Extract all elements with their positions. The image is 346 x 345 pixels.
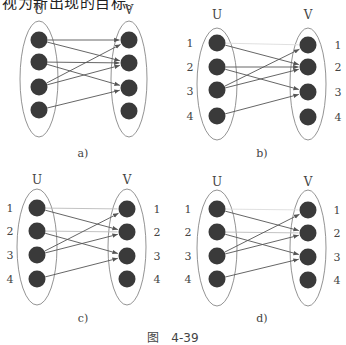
node-v2 <box>300 59 317 76</box>
row-label-right-2: 2 <box>335 61 342 74</box>
row-label-right-1: 1 <box>334 204 341 217</box>
panel-sublabel: c) <box>78 312 88 325</box>
node-v1 <box>300 202 317 219</box>
node-u4 <box>209 271 226 288</box>
node-u3 <box>29 247 46 264</box>
edge-u1-v1 <box>45 208 117 209</box>
row-label-right-4: 4 <box>154 273 161 286</box>
row-label-left-4: 4 <box>7 273 14 286</box>
panel-sublabel: d) <box>256 312 267 325</box>
edge-u1-v2 <box>225 211 299 230</box>
node-v4 <box>119 271 136 288</box>
node-v3 <box>121 80 138 97</box>
edge-u1-v1 <box>225 209 298 210</box>
node-v2 <box>121 55 138 72</box>
set-u-label: U <box>212 175 222 189</box>
caption-number: 4-39 <box>171 331 198 345</box>
node-v4 <box>300 272 317 289</box>
node-u1 <box>29 200 46 217</box>
node-u3 <box>31 79 48 96</box>
node-u4 <box>209 108 226 125</box>
panel-b: UV12341234b) <box>187 8 342 160</box>
node-u1 <box>209 201 226 218</box>
node-v2 <box>300 225 317 242</box>
row-label-right-2: 2 <box>154 226 161 239</box>
row-label-left-3: 3 <box>185 250 192 263</box>
node-u4 <box>31 102 48 119</box>
panel-sublabel: b) <box>256 147 267 160</box>
set-u-label: U <box>212 8 222 22</box>
row-label-right-1: 1 <box>154 203 161 216</box>
row-label-left-2: 2 <box>185 226 192 239</box>
row-label-right-3: 3 <box>335 86 342 99</box>
node-v1 <box>119 201 136 218</box>
figure-caption: 图 4-39 <box>0 328 346 345</box>
node-u1 <box>31 32 48 49</box>
set-v-label: V <box>122 173 132 187</box>
edge-u1-v2 <box>47 42 120 61</box>
edge-u4-v3 <box>47 90 120 108</box>
node-v1 <box>300 37 317 54</box>
row-label-left-4: 4 <box>185 273 192 286</box>
set-u-label: U <box>34 3 44 17</box>
edge-u1-v1 <box>225 43 298 45</box>
row-label-left-3: 3 <box>187 85 194 98</box>
row-label-right-3: 3 <box>334 251 341 264</box>
set-v-label: V <box>303 8 313 22</box>
node-u2 <box>209 59 226 76</box>
row-label-left-4: 4 <box>187 110 194 123</box>
node-u2 <box>29 223 46 240</box>
panel-a: UVa) <box>20 3 147 160</box>
node-u3 <box>209 82 226 99</box>
panel-sublabel: a) <box>78 147 89 160</box>
row-label-right-4: 4 <box>335 111 342 124</box>
edge-u2-v2 <box>47 62 119 63</box>
row-label-right-1: 1 <box>335 39 342 52</box>
node-u3 <box>209 248 226 265</box>
set-u-label: U <box>32 173 42 187</box>
panel-d: UV12341234d) <box>185 175 341 325</box>
node-u2 <box>31 54 48 71</box>
row-label-left-2: 2 <box>7 225 14 238</box>
row-label-left-1: 1 <box>7 202 14 215</box>
node-u2 <box>209 224 226 241</box>
row-label-left-3: 3 <box>7 249 14 262</box>
node-u1 <box>209 35 226 52</box>
row-label-right-2: 2 <box>334 227 341 240</box>
caption-prefix: 图 <box>147 331 159 345</box>
node-v3 <box>119 248 136 265</box>
row-label-left-1: 1 <box>187 37 194 50</box>
set-v-label: V <box>303 175 313 189</box>
row-label-right-3: 3 <box>154 250 161 263</box>
node-v4 <box>121 103 138 120</box>
node-v3 <box>300 249 317 266</box>
bipartite-graph-figure: UVa)UV12341234b)UV12341234c)UV12341234d) <box>0 0 346 345</box>
row-label-left-2: 2 <box>187 61 194 74</box>
node-v4 <box>300 109 317 126</box>
node-u4 <box>29 271 46 288</box>
node-v1 <box>121 32 138 49</box>
panel-c: UV12341234c) <box>7 173 161 325</box>
row-label-right-4: 4 <box>334 274 341 287</box>
row-label-left-1: 1 <box>185 203 192 216</box>
node-v3 <box>300 84 317 101</box>
node-v2 <box>119 224 136 241</box>
set-v-label: V <box>124 3 134 17</box>
